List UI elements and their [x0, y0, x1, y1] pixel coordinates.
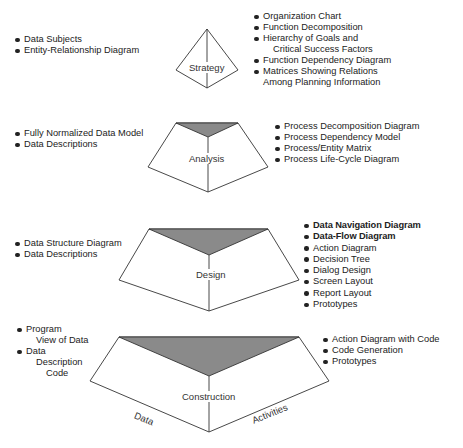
list-item: Fully Normalized Data Model [14, 128, 143, 139]
construction-activity-list: Action Diagram with Code Code Generation… [322, 334, 439, 367]
analysis-activity-list: Process Decomposition Diagram Process De… [274, 121, 419, 165]
list-item: Data Structure Diagram [14, 238, 122, 249]
list-item: Process Life-Cycle Diagram [274, 154, 419, 165]
list-item: Function Decomposition [253, 22, 391, 33]
list-item: Data-Flow Diagram [303, 231, 421, 242]
analysis-data-list: Fully Normalized Data Model Data Descrip… [14, 128, 143, 150]
strategy-activity-list: Organization Chart Function Decompositio… [253, 11, 391, 88]
list-item: Process/Entity Matrix [274, 143, 419, 154]
list-item: DataDescriptionCode [16, 346, 89, 379]
list-item: Organization Chart [253, 11, 391, 22]
list-item: Action Diagram with Code [322, 334, 439, 345]
strategy-data-list: Data Subjects Entity-Relationship Diagra… [14, 34, 139, 56]
construction-data-list: ProgramView of Data DataDescriptionCode [16, 324, 89, 379]
stage-label-construction: Construction [181, 391, 236, 402]
list-item: Data Descriptions [14, 249, 122, 260]
list-item: Data Descriptions [14, 139, 143, 150]
strategy-pyramid [176, 29, 238, 88]
list-item: Decision Tree [303, 254, 421, 265]
list-item: Screen Layout [303, 276, 421, 287]
stage-label-design: Design [195, 269, 227, 280]
stage-label-analysis: Analysis [188, 153, 225, 164]
list-item: Code Generation [322, 345, 439, 356]
list-item: Data Navigation Diagram [303, 220, 421, 231]
list-item: Process Dependency Model [274, 132, 419, 143]
stage-label-strategy: Strategy [188, 62, 225, 73]
design-data-list: Data Structure Diagram Data Descriptions [14, 238, 122, 260]
list-item: Dialog Design [303, 265, 421, 276]
list-item: Function Dependency Diagram [253, 55, 391, 66]
list-item: Matrices Showing RelationsAmong Planning… [253, 66, 391, 88]
list-item: Prototypes [303, 299, 421, 310]
list-item: Entity-Relationship Diagram [14, 45, 139, 56]
design-activity-list: Data Navigation Diagram Data-Flow Diagra… [303, 220, 421, 310]
list-item: Action Diagram [303, 243, 421, 254]
construction-frustum [90, 337, 329, 432]
list-item: Prototypes [322, 356, 439, 367]
list-item: Process Decomposition Diagram [274, 121, 419, 132]
list-item: ProgramView of Data [16, 324, 89, 346]
list-item: Hierarchy of Goals andCritical Success F… [253, 33, 391, 55]
list-item: Report Layout [303, 288, 421, 299]
list-item: Data Subjects [14, 34, 139, 45]
